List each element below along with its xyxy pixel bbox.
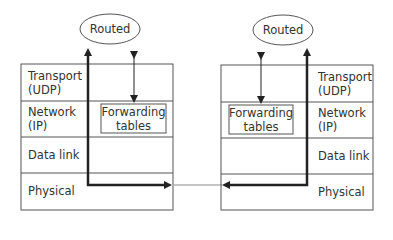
left-forwarding-label: Forwarding tables [101, 105, 166, 133]
right-physical-label: Physical [318, 185, 365, 199]
left-datalink-label: Data link [28, 148, 79, 162]
right-forwarding-line2: tables [229, 120, 293, 134]
right-network-label: Network (IP) [318, 106, 366, 134]
left-network-line1: Network [28, 105, 76, 119]
right-transport-label: Transport (UDP) [318, 70, 372, 98]
right-transport-line2: (UDP) [318, 84, 372, 98]
left-forwarding-line2: tables [101, 119, 166, 133]
right-transport-line1: Transport [318, 70, 372, 84]
right-network-line1: Network [318, 106, 366, 120]
right-network-line2: (IP) [318, 120, 366, 134]
left-transport-line1: Transport [28, 69, 82, 83]
right-routed-label: Routed [253, 23, 313, 37]
left-network-line2: (IP) [28, 119, 76, 133]
right-datalink-label: Data link [318, 149, 369, 163]
left-routed-label: Routed [80, 22, 140, 36]
left-forwarding-line1: Forwarding [101, 105, 166, 119]
left-network-label: Network (IP) [28, 105, 76, 133]
left-transport-line2: (UDP) [28, 83, 82, 97]
right-forwarding-line1: Forwarding [229, 106, 293, 120]
left-physical-label: Physical [28, 184, 75, 198]
left-transport-label: Transport (UDP) [28, 69, 82, 97]
right-forwarding-label: Forwarding tables [229, 106, 293, 134]
